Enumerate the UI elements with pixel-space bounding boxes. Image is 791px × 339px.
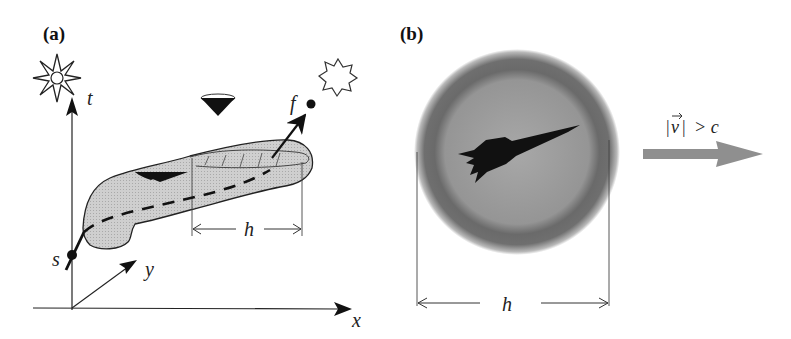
velocity-label: | v | > c: [666, 113, 719, 137]
velocity-arrow-icon: [643, 141, 763, 167]
start-point-label: s: [52, 248, 60, 270]
velocity-rbar: |: [682, 117, 686, 137]
y-axis: [72, 267, 128, 308]
start-point: [67, 250, 77, 260]
x-axis-label: x: [351, 309, 361, 331]
panel-b: (b) h | v | > c: [400, 23, 763, 315]
emission-star-icon: [319, 59, 357, 96]
x-axis: [33, 308, 340, 309]
panel-b-label: (b): [400, 23, 423, 45]
y-axis-label: y: [143, 258, 154, 281]
dimension-h-b: [418, 298, 608, 308]
velocity-lbar: |: [666, 117, 670, 137]
finish-point: [307, 100, 316, 109]
dimension-h-b-label: h: [502, 293, 512, 315]
panel-a-label: (a): [43, 23, 65, 45]
panel-a: (a) t x y: [33, 23, 361, 331]
t-axis-label: t: [87, 87, 93, 109]
explosion-star-icon: [33, 54, 81, 102]
finish-point-label: f: [290, 92, 298, 115]
velocity-relation: > c: [694, 117, 719, 137]
velocity-v: v: [671, 117, 679, 137]
figure-canvas: (a) t x y: [0, 0, 791, 339]
light-cone-upper-icon: [201, 94, 235, 116]
dimension-h-a-label: h: [244, 218, 254, 240]
